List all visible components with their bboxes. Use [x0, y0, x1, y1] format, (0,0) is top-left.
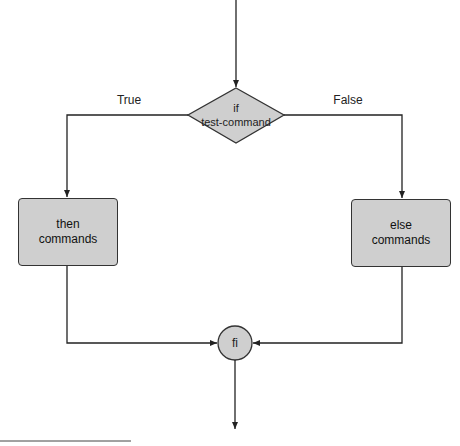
else-box-line2: commands [372, 233, 431, 248]
decision-label-line1: if [188, 101, 284, 115]
else-commands-box: else commands [351, 199, 451, 267]
then-box-line2: commands [39, 232, 98, 247]
then-box-line1: then [39, 217, 98, 232]
else-to-fi-line [253, 266, 402, 343]
then-commands-box: then commands [18, 198, 118, 266]
true-label: True [104, 93, 154, 107]
else-box-line1: else [372, 218, 431, 233]
then-to-fi-line [67, 265, 217, 343]
true-branch-line [67, 115, 188, 197]
false-label: False [323, 93, 373, 107]
merge-label: fi [215, 336, 255, 350]
decision-label-line2: test-command [188, 115, 284, 129]
decision-label: if test-command [188, 101, 284, 129]
false-branch-line [284, 115, 402, 198]
